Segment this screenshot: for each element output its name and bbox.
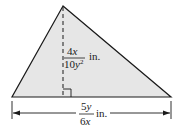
base-dimension [12, 101, 171, 119]
svg-text:4x: 4x [67, 45, 78, 57]
base-label: 5y 6x in. [79, 100, 108, 127]
base-unit: in. [96, 107, 108, 119]
svg-text:6x: 6x [80, 115, 91, 127]
svg-text:5y: 5y [81, 100, 92, 112]
height-unit: in. [89, 50, 101, 62]
arrow-left-icon [13, 111, 20, 116]
arrow-right-icon [163, 111, 170, 116]
height-numerator-var: x [72, 45, 78, 57]
triangle-diagram: 4x 10y2 in. 5y 6x in. [0, 0, 184, 131]
